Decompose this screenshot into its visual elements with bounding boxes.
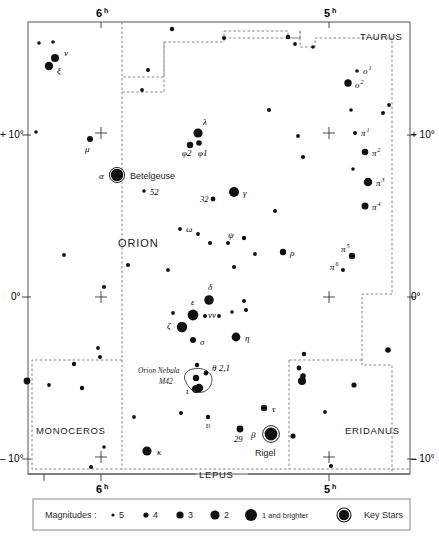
legend-label-mag5: 5 <box>119 510 124 520</box>
field-star <box>132 415 136 419</box>
field-star <box>385 347 391 353</box>
star-designation: γ <box>243 188 247 198</box>
labeled-star: o1 <box>355 65 371 76</box>
field-star <box>72 362 76 366</box>
field-star <box>126 263 130 267</box>
field-star <box>273 209 277 213</box>
chart-frame <box>28 22 410 474</box>
field-star <box>208 241 212 245</box>
labeled-star: νν <box>203 310 216 320</box>
boundary-taurus-eridanus-east <box>300 38 392 294</box>
star-dot <box>211 197 216 202</box>
star-designation: ρ <box>289 248 295 258</box>
labeled-stars-group: νξo1o2μλφ2φ15232γπ1π2π3π4π5π6ωψρδεζσννηθ… <box>45 48 385 457</box>
labeled-star: τ <box>261 404 276 414</box>
field-star <box>24 378 31 385</box>
grid-cross-5h-minus10 <box>323 451 335 463</box>
labeled-star: π6 <box>330 261 345 272</box>
field-star <box>301 155 305 159</box>
field-star <box>242 299 246 303</box>
star-dot <box>341 268 345 272</box>
star-trapezium <box>193 375 199 381</box>
legend-dot-mag1 <box>245 509 257 521</box>
legend-title: Magnitudes : <box>45 510 97 520</box>
star-designation: φ2 <box>182 148 192 158</box>
star-dot <box>237 426 244 433</box>
star-designation-superscript: 5 <box>347 243 350 249</box>
field-star <box>195 363 199 367</box>
star-designation: λ <box>202 117 207 127</box>
field-star <box>171 311 175 315</box>
labeled-star: 29 <box>234 426 243 444</box>
labeled-star: ξ <box>45 62 61 76</box>
ra-axis-bottom: 6 h 5 h <box>44 474 336 495</box>
field-star <box>267 108 271 112</box>
field-star <box>166 268 170 272</box>
labeled-star: π5 <box>341 243 355 259</box>
boundary-eridanus-notch <box>362 294 392 474</box>
star-designation: ζ <box>167 321 172 331</box>
star-designation: π <box>372 202 377 212</box>
star-chart-figure: 6 h 5 h 6 h 5 h + 10° 0° – 10° + 10° 0° … <box>0 0 439 542</box>
field-star <box>51 40 55 44</box>
grid-cross-6h-plus10 <box>95 127 107 139</box>
key-star-rigel: β Rigel <box>250 426 279 458</box>
star-dot <box>204 295 214 305</box>
star-designation-superscript: 6 <box>336 261 339 267</box>
labeled-star: π3 <box>364 177 385 188</box>
field-star <box>37 41 41 45</box>
field-star <box>323 410 327 414</box>
nebula-label-orion-nebula: Orion Nebula <box>138 366 180 375</box>
ra-label-6h-top: 6 <box>96 7 102 19</box>
legend-dot-mag5 <box>111 513 114 516</box>
legend-label-mag4: 4 <box>153 510 158 520</box>
star-designation: κ <box>157 447 162 457</box>
sky-map-svg: 6 h 5 h 6 h 5 h + 10° 0° – 10° + 10° 0° … <box>0 0 439 542</box>
constellation-label-lepus: LEPUS <box>199 469 234 480</box>
star-designation: o <box>355 80 360 90</box>
star-designation: ν <box>64 48 68 58</box>
labeled-star: ζ <box>167 321 187 332</box>
field-star <box>217 314 221 318</box>
constellation-label-eridanus: ERIDANUS <box>345 425 400 436</box>
labeled-star: δ <box>204 282 214 305</box>
constellation-label-taurus: TAURUS <box>360 31 403 42</box>
field-star <box>298 377 306 385</box>
star-designation: π <box>376 178 381 188</box>
field-star <box>381 111 385 115</box>
star-designation: ω <box>186 224 192 234</box>
field-star <box>62 253 66 257</box>
star-dot-rigel <box>265 428 278 441</box>
field-star <box>179 411 183 415</box>
field-star <box>80 386 84 390</box>
ra-label-6h-bottom: 6 <box>96 483 102 495</box>
labeled-star: π4 <box>362 201 381 212</box>
labeled-star: ρ <box>280 248 295 258</box>
field-star <box>286 35 291 40</box>
legend-label-mag3: 3 <box>188 510 193 520</box>
star-designation-superscript: 1 <box>367 127 370 133</box>
field-star <box>222 36 226 40</box>
field-star <box>290 433 295 438</box>
ra-label-5h-bottom-sup: h <box>332 483 336 490</box>
orion-nebula-group: Orion Nebula M42 <box>138 366 212 392</box>
field-star <box>242 236 246 240</box>
star-dot <box>177 322 187 332</box>
legend-label-mag2: 2 <box>224 510 229 520</box>
star-dot <box>226 241 230 245</box>
star-dot-betelgeuse <box>111 169 123 181</box>
star-dot <box>349 253 355 259</box>
star-designation: ι <box>186 386 189 396</box>
ra-label-6h-top-sup: h <box>104 7 108 14</box>
field-star <box>351 382 356 387</box>
star-dot <box>142 446 151 455</box>
field-star <box>96 346 100 350</box>
labeled-star: μ <box>84 136 93 154</box>
ra-label-6h-bottom-sup: h <box>104 483 108 490</box>
star-dot <box>261 405 267 411</box>
star-designation: π <box>341 244 346 254</box>
star-designation: 29 <box>234 434 243 444</box>
field-star <box>387 103 391 107</box>
star-designation: η <box>245 333 250 343</box>
field-star <box>47 383 51 387</box>
